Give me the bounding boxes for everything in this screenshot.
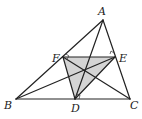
label-d: D <box>70 102 80 115</box>
shaded-triangle-def <box>63 57 115 99</box>
label-f: F <box>51 52 60 65</box>
label-e: E <box>118 52 127 65</box>
label-b: B <box>3 99 12 112</box>
geometry-diagram: A B C D E F <box>0 0 142 119</box>
label-a: A <box>97 5 106 18</box>
label-c: C <box>130 99 139 112</box>
